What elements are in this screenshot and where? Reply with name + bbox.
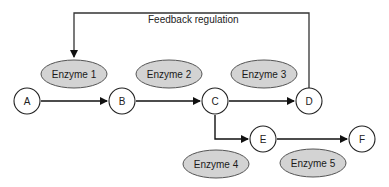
node-b-label: B [119,96,126,107]
arrow-c-to-e [215,115,248,139]
enzyme-2: Enzyme 2 [136,60,202,88]
enzyme-3: Enzyme 3 [231,60,297,88]
enzyme-1-label: Enzyme 1 [52,69,97,80]
enzyme-5: Enzyme 5 [280,149,346,177]
node-b: B [109,88,135,114]
node-f: F [349,126,375,152]
node-c: C [202,88,228,114]
node-a: A [14,88,40,114]
enzyme-1: Enzyme 1 [41,60,107,88]
node-f-label: F [359,134,365,145]
node-e: E [250,126,276,152]
node-d-label: D [305,96,312,107]
node-c-label: C [211,96,218,107]
node-d: D [296,88,322,114]
node-a-label: A [24,96,31,107]
enzyme-2-label: Enzyme 2 [147,69,192,80]
node-e-label: E [260,134,267,145]
feedback-label: Feedback regulation [148,14,239,25]
enzyme-4: Enzyme 4 [183,150,249,178]
enzyme-5-label: Enzyme 5 [291,158,336,169]
enzyme-3-label: Enzyme 3 [242,69,287,80]
pathway-diagram: Feedback regulation Enzyme 1 Enzyme 2 En… [0,0,389,187]
enzyme-4-label: Enzyme 4 [194,159,239,170]
